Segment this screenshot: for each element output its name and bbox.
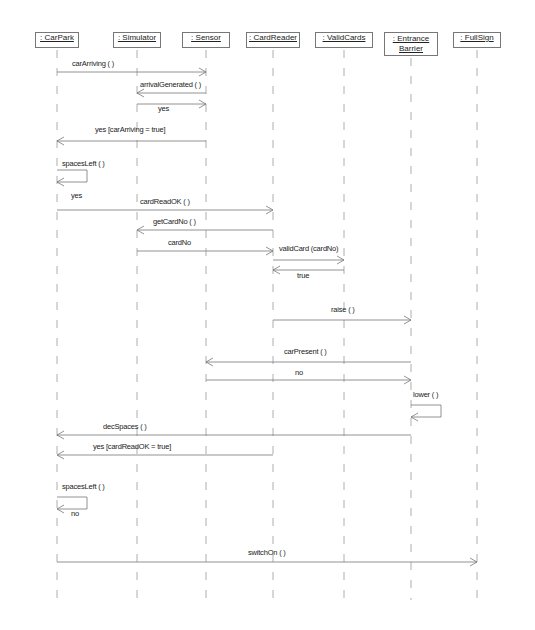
message-label-getCardNo: getCardNo ( ): [153, 217, 196, 226]
message-label-cardReadOK: cardReadOK ( ): [140, 197, 190, 206]
lifeline-label: : Sensor: [183, 33, 229, 43]
message-label-spacesLeft: spacesLeft ( ): [62, 159, 105, 168]
message-label-validCard: validCard (cardNo): [279, 244, 338, 253]
message-label-switchOn: switchOn ( ): [248, 548, 286, 557]
message-label-carArriving: carArriving ( ): [72, 59, 114, 68]
message-label-yes-carArriving: yes [carArriving = true]: [95, 125, 165, 134]
lifeline-label: : CardReader: [247, 33, 299, 43]
message-label-decSpaces: decSpaces ( ): [103, 422, 147, 431]
message-label-yes-cardReadOK: yes [cardReadOK = true]: [93, 442, 171, 451]
lifeline-label: : ValidCards: [316, 33, 372, 43]
lifeline-header-validcards[interactable]: : ValidCards: [315, 32, 373, 48]
lifeline-label: : CarPark: [36, 33, 78, 43]
message-label-lower: lower ( ): [413, 390, 438, 399]
message-label-yes-spaces: yes: [71, 191, 82, 200]
message-label-no-spaces: no: [71, 509, 79, 518]
lifeline-label-line2: Barrier: [385, 44, 437, 54]
message-label-raise: raise ( ): [331, 305, 355, 314]
lifeline-header-sensor[interactable]: : Sensor: [182, 32, 230, 48]
message-label-true: true: [297, 271, 309, 280]
message-label-yes: yes: [158, 104, 169, 113]
message-label-cardNo: cardNo: [168, 238, 191, 247]
message-label-arrivalGenerated: arrivalGenerated ( ): [140, 80, 201, 89]
lifeline-header-simulator[interactable]: : Simulator: [113, 32, 161, 48]
lifeline-label-line1: : Entrance: [385, 34, 437, 44]
lifeline-label: : FullSign: [454, 33, 500, 43]
lifeline-label: : Simulator: [114, 33, 160, 43]
message-label-carPresent: carPresent ( ): [284, 347, 327, 356]
message-label-spacesLeft-2: spacesLeft ( ): [62, 482, 105, 491]
lifeline-header-cardreader[interactable]: : CardReader: [246, 32, 300, 48]
lifeline-header-entrancebarrier[interactable]: : Entrance Barrier: [384, 32, 438, 56]
message-label-no: no: [295, 368, 303, 377]
sequence-diagram-canvas: [0, 0, 535, 630]
lifeline-header-carpark[interactable]: : CarPark: [35, 32, 79, 48]
lifeline-header-fullsign[interactable]: : FullSign: [453, 32, 501, 48]
